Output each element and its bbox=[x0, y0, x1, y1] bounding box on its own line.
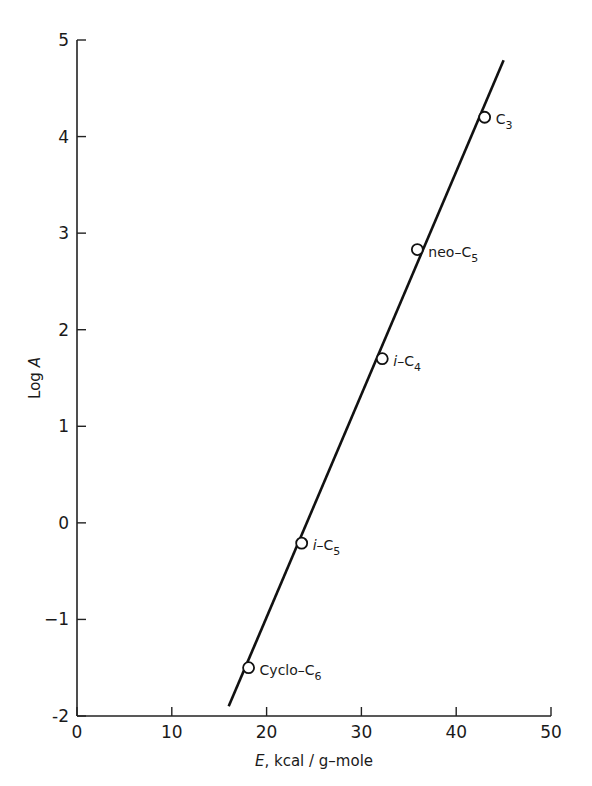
axes bbox=[77, 40, 551, 716]
point-label: i–C5 bbox=[313, 537, 341, 558]
y-axis-title: Log A bbox=[26, 357, 44, 399]
x-tick-label: 40 bbox=[445, 722, 467, 742]
data-point: i–C4 bbox=[377, 353, 421, 374]
x-axis-unit: , kcal / g–mole bbox=[264, 752, 373, 770]
y-axis-prefix: Log bbox=[26, 367, 44, 399]
point-label: i–C4 bbox=[393, 353, 421, 374]
y-tick-label: 0 bbox=[58, 513, 69, 533]
point-marker bbox=[377, 353, 388, 364]
point-marker bbox=[296, 538, 307, 549]
x-tick-label: 20 bbox=[256, 722, 278, 742]
point-label: C3 bbox=[496, 111, 513, 132]
chart: -2−101234501020304050 C3neo–C5i–C4i–C5Cy… bbox=[0, 0, 592, 786]
data-point: Cyclo–C6 bbox=[243, 662, 322, 683]
point-label: neo–C5 bbox=[428, 244, 478, 265]
ticks: -2−101234501020304050 bbox=[44, 30, 562, 742]
fit-line bbox=[229, 60, 504, 706]
point-marker bbox=[412, 244, 423, 255]
y-tick-label: 5 bbox=[58, 30, 69, 50]
data-point: neo–C5 bbox=[412, 244, 478, 265]
y-tick-label: −1 bbox=[44, 609, 69, 629]
point-label: Cyclo–C6 bbox=[260, 662, 322, 683]
y-tick-label: 2 bbox=[58, 320, 69, 340]
point-marker bbox=[243, 662, 254, 673]
y-axis-variable: A bbox=[26, 357, 44, 368]
y-tick-label: 4 bbox=[58, 127, 69, 147]
x-tick-label: 0 bbox=[72, 722, 83, 742]
x-tick-label: 10 bbox=[161, 722, 183, 742]
y-tick-label: -2 bbox=[52, 706, 69, 726]
x-axis-title: E, kcal / g–mole bbox=[255, 752, 373, 770]
x-tick-label: 30 bbox=[351, 722, 373, 742]
data-points: C3neo–C5i–C4i–C5Cyclo–C6 bbox=[243, 111, 512, 682]
point-marker bbox=[479, 112, 490, 123]
y-tick-label: 1 bbox=[58, 416, 69, 436]
data-point: i–C5 bbox=[296, 537, 340, 558]
data-point: C3 bbox=[479, 111, 512, 132]
y-tick-label: 3 bbox=[58, 223, 69, 243]
regression-line bbox=[229, 60, 504, 706]
x-tick-label: 50 bbox=[540, 722, 562, 742]
